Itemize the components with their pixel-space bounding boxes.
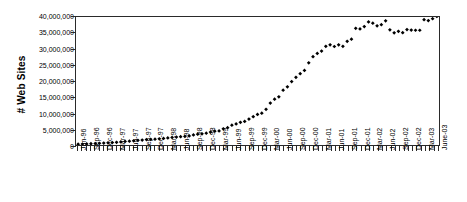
data-point (414, 28, 418, 32)
data-point (324, 44, 328, 48)
data-point (320, 49, 324, 53)
data-point (294, 75, 298, 79)
data-point (264, 107, 268, 111)
x-tick-label: Jun-99 (235, 129, 242, 150)
data-point (290, 80, 294, 84)
data-point (230, 123, 234, 127)
data-point (247, 117, 251, 121)
data-point (431, 17, 435, 21)
x-tick-label: Sep-02 (402, 127, 409, 150)
data-point (140, 138, 144, 142)
data-point (405, 28, 409, 32)
data-point (311, 55, 315, 59)
x-tick-label: Sep-99 (248, 127, 255, 150)
data-point (234, 122, 238, 126)
x-tick-label: Jun-96 (80, 129, 87, 150)
x-tick-label: Mar-00 (273, 128, 280, 150)
data-point (401, 31, 405, 35)
data-point (362, 25, 366, 29)
data-point (239, 120, 243, 124)
plot-frame (75, 16, 440, 146)
x-tick-label: Sep-96 (93, 127, 100, 150)
data-point (358, 27, 362, 31)
data-point (303, 69, 307, 73)
data-point (388, 28, 392, 32)
data-point (115, 140, 119, 144)
x-tick-label: Sep-00 (299, 127, 306, 150)
x-tick-label: Mar-98 (170, 128, 177, 150)
data-point (127, 139, 131, 143)
data-point (243, 120, 247, 124)
y-axis-title: # Web Sites (14, 28, 28, 140)
data-point (354, 26, 358, 30)
data-point (435, 17, 439, 18)
data-point (379, 23, 383, 27)
data-point (256, 113, 260, 117)
data-point (260, 111, 264, 115)
x-tick-label: Dec-02 (415, 127, 422, 150)
x-tick-label: Jun-98 (183, 129, 190, 150)
data-point (298, 72, 302, 76)
y-axis-title-label: # Web Sites (16, 55, 27, 113)
data-point (277, 95, 281, 99)
data-point (418, 28, 422, 32)
data-point (341, 44, 345, 48)
data-point (217, 129, 221, 133)
data-series-web-sites (76, 17, 439, 145)
x-tick-label: Dec-97 (157, 127, 164, 150)
data-point (371, 21, 375, 25)
data-point (281, 88, 285, 92)
x-tick-label: Jun-97 (132, 129, 139, 150)
x-tick-label: Sep-01 (351, 127, 358, 150)
data-point (345, 39, 349, 43)
data-point (384, 19, 388, 23)
x-tick-label: June-03 (441, 125, 448, 150)
x-tick-label: Mar-03 (428, 128, 435, 150)
data-point (315, 52, 319, 56)
x-tick-label: Mar-02 (376, 128, 383, 150)
data-point (192, 133, 196, 137)
data-point (375, 24, 379, 28)
data-point (409, 28, 413, 32)
x-tick-label: Dec-00 (312, 127, 319, 150)
x-axis-tick-labels: Jun-96Sep-96Dec-96Mar-97Jun-97Sep-97Dec-… (0, 150, 467, 202)
data-point (328, 43, 332, 47)
data-point (397, 29, 401, 33)
data-point (268, 101, 272, 105)
x-tick-label: Dec-96 (106, 127, 113, 150)
x-tick-label: Jun-01 (338, 129, 345, 150)
data-point (392, 31, 396, 35)
data-point (307, 61, 311, 65)
data-point (251, 115, 255, 119)
x-tick-label: Mar-01 (325, 128, 332, 150)
x-tick-label: Mar-99 (222, 128, 229, 150)
data-point (337, 43, 341, 47)
x-tick-label: Mar-97 (119, 128, 126, 150)
x-tick-label: Dec-98 (209, 127, 216, 150)
data-point (273, 97, 277, 101)
x-tick-label: Jun-00 (286, 129, 293, 150)
data-point (332, 45, 336, 49)
data-point (204, 131, 208, 135)
web-sites-growth-chart: # Web Sites 05,000,00010,000,00015,000,0… (0, 0, 467, 202)
x-tick-label: Sep-98 (196, 127, 203, 150)
data-point (367, 20, 371, 24)
data-point (426, 19, 430, 23)
x-tick-label: Sep-97 (145, 127, 152, 150)
plot-area (76, 17, 439, 145)
x-tick-label: Jun-02 (389, 129, 396, 150)
data-point (350, 37, 354, 41)
x-tick-label: Dec-99 (261, 127, 268, 150)
data-point (286, 85, 290, 89)
x-tick-label: Dec-01 (364, 127, 371, 150)
data-point (422, 18, 426, 22)
data-point (179, 135, 183, 139)
